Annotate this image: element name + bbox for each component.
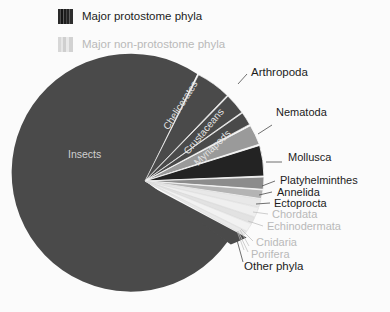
slice-label-platyhelminthes: Platyhelminthes: [280, 174, 358, 186]
slice-label-mollusca: Mollusca: [288, 151, 331, 163]
group-label-arthropoda: Arthropoda: [251, 66, 308, 78]
slice-label-other-phyla: Other phyla: [244, 260, 303, 272]
slice-label-cnidaria: Cnidaria: [256, 236, 297, 248]
slice-label-insects: Insects: [68, 148, 101, 160]
slice-label-porifera: Porifera: [251, 248, 290, 260]
slice-label-echinodermata: Echinodermata: [267, 220, 341, 232]
leader-nematoda: [258, 125, 272, 134]
slice-label-nematoda: Nematoda: [276, 106, 327, 118]
leader-arthropoda: [238, 74, 247, 84]
chart-plot-area: Insects Chelicerates Crustaceans Myriapo…: [0, 0, 390, 312]
pie-chart-figure: Major protostome phyla Major non-protost…: [0, 0, 390, 312]
slice-label-chordata: Chordata: [272, 208, 317, 220]
